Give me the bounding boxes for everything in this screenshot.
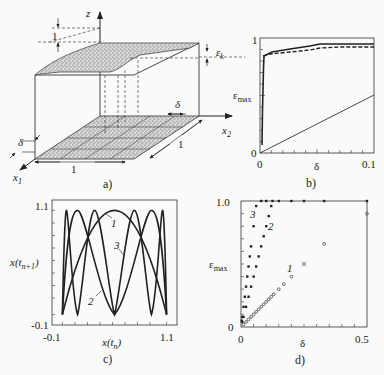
data-point-series-3 — [252, 225, 254, 227]
panel-c-x-ticks — [62, 322, 166, 325]
data-point-series-2 — [257, 255, 259, 257]
data-point-series-1 — [242, 323, 245, 326]
data-point-series-1 — [250, 316, 253, 319]
data-point-series-2 — [252, 275, 254, 277]
front-width-label: 1 — [71, 163, 77, 175]
delta-top-label: δ — [175, 98, 181, 110]
data-point-series-2 — [290, 200, 292, 202]
panel-d-y-tick-bottom: 0 — [228, 321, 234, 333]
data-point-series-1 — [272, 293, 275, 296]
base-grid-surface — [35, 116, 199, 159]
panel-b-x-label: δ — [314, 160, 319, 172]
panel-d-x-tick-left: 0 — [238, 333, 244, 345]
data-point-series-1 — [245, 321, 248, 324]
data-point-series-2 — [303, 200, 305, 202]
panel-b-x-tick-left: 0 — [257, 158, 263, 170]
data-point-series-1 — [247, 318, 250, 321]
panel-b-x-tick-right: 0.1 — [362, 158, 376, 170]
x1-axis — [20, 159, 35, 170]
side-width-label: 1 — [178, 138, 184, 150]
data-point-series-2 — [245, 306, 247, 308]
data-point-series-1 — [257, 308, 260, 311]
panel-d-frame — [241, 201, 367, 327]
top-surface — [35, 43, 199, 75]
data-point-series-1 — [265, 300, 268, 303]
z-axis-label: z — [85, 7, 91, 19]
panel-c-x-tick-right: 1.1 — [160, 331, 174, 343]
panel-a-caption: a) — [103, 177, 112, 191]
data-point-series-1 — [270, 295, 273, 298]
data-point-series-3 — [245, 285, 247, 287]
data-point-series-1 — [267, 298, 270, 301]
data-point-series-3 — [244, 296, 246, 298]
data-point-series-2 — [271, 200, 273, 202]
panel-c-x-label: x(tn) — [101, 336, 122, 351]
data-point-series-1 — [290, 275, 293, 278]
panel-d-x-ticks — [254, 324, 355, 327]
delta-left-label: δ — [18, 136, 24, 148]
panel-d-series — [241, 200, 369, 326]
data-point-series-1 — [303, 263, 306, 266]
data-point-series-2 — [278, 200, 280, 202]
data-point-series-3 — [241, 320, 243, 322]
data-point-series-2 — [255, 265, 257, 267]
height-label: 1 — [52, 30, 58, 42]
panel-b-y-label: εmax — [233, 89, 251, 104]
panel-c-y-tick-top: 1.1 — [35, 200, 49, 212]
panel-b-y-tick-top: 1 — [252, 34, 258, 46]
panel-b-chart: 1 0 0 0.1 δ εmax b) — [233, 34, 376, 190]
panel-c-chart: 1 3 2 1.1 -0.1 -0.1 1.1 x(tn) x(tn+1) c) — [9, 200, 177, 366]
data-point-series-1 — [277, 288, 280, 291]
panel-b-caption: b) — [306, 176, 316, 190]
panel-c-curve-label-1: 1 — [111, 217, 117, 229]
data-point-series-2 — [247, 296, 249, 298]
data-point-series-2 — [270, 205, 272, 207]
panel-c-y-tick-bottom: -0.1 — [31, 319, 48, 331]
data-point-series-1 — [255, 310, 258, 313]
panel-b-x-ticks — [271, 149, 362, 153]
data-point-series-3 — [246, 275, 248, 277]
panel-c-curve-label-2: 2 — [88, 295, 94, 307]
panel-c-x-tick-left: -0.1 — [43, 331, 60, 343]
data-point-series-1 — [262, 303, 265, 306]
panel-a-3d-diagram: z 1 εk x2 x1 1 1 δ δ a) — [10, 7, 245, 191]
panel-c-caption: c) — [103, 352, 112, 366]
data-point-series-2 — [262, 235, 264, 237]
panel-d-y-label: εmax — [209, 258, 227, 273]
epsilon-k-label: εk — [216, 46, 224, 61]
data-point-series-3 — [241, 316, 243, 318]
data-point-series-2 — [323, 200, 325, 202]
panel-d-curve-label-2: 2 — [268, 220, 274, 232]
panel-d-curve-label-1: 1 — [287, 262, 293, 274]
panel-d-curve-label-3: 3 — [249, 208, 256, 220]
data-point-series-3 — [265, 200, 267, 202]
panel-b-frame — [260, 38, 374, 153]
data-point-series-3 — [247, 265, 249, 267]
data-point-series-1 — [260, 305, 263, 308]
panel-d-y-tick-top: 1.0 — [216, 196, 230, 208]
data-point-series-2 — [366, 200, 368, 202]
panel-d-chart: 3 2 1 1.0 0 0 0.5 δ εmax d) — [209, 196, 369, 367]
data-point-series-2 — [250, 285, 252, 287]
data-point-series-1 — [252, 313, 255, 316]
data-point-series-1 — [323, 242, 326, 245]
data-point-series-3 — [242, 306, 244, 308]
data-point-series-3 — [250, 245, 252, 247]
data-point-series-3 — [255, 205, 257, 207]
panel-c-curve-label-3: 3 — [113, 239, 120, 251]
data-point-series-3 — [260, 200, 262, 202]
panel-c-y-label: x(tn+1) — [9, 256, 39, 271]
panel-c-y-ticks — [52, 210, 55, 314]
data-point-series-3 — [249, 255, 251, 257]
panel-b-solid-series — [262, 44, 374, 145]
panel-d-x-tick-right: 0.5 — [355, 333, 369, 345]
data-point-series-2 — [268, 215, 270, 217]
panel-d-caption: d) — [295, 353, 305, 367]
x1-axis-label: x1 — [12, 171, 22, 186]
data-point-series-1 — [282, 283, 285, 286]
panel-d-x-label: δ — [300, 337, 305, 349]
figure-canvas: z 1 εk x2 x1 1 1 δ δ a) — [0, 0, 384, 375]
panel-d-y-ticks — [241, 214, 244, 315]
x2-axis-label: x2 — [221, 124, 231, 139]
panel-b-linear-series — [260, 95, 374, 153]
